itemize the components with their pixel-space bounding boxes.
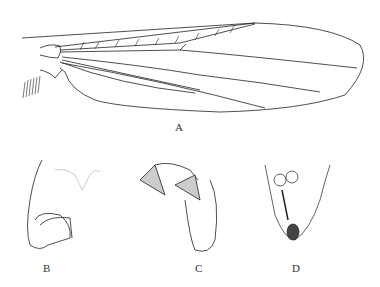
- wing-drawing: [0, 0, 380, 287]
- panel-label-c: C: [195, 262, 202, 274]
- panel-label-b: B: [43, 262, 50, 274]
- panel-c-drawing: [140, 163, 217, 251]
- panel-b-drawing: [28, 160, 101, 249]
- panel-d-drawing: [265, 165, 330, 240]
- panel-label-a: A: [175, 121, 183, 133]
- figure: A B C D: [0, 0, 380, 287]
- panel-label-d: D: [292, 262, 300, 274]
